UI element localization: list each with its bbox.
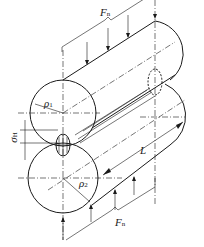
contact-cylinders-diagram [0,0,204,247]
force-bottom-label: Fn [115,217,125,228]
radius-1-label: ρ1 [44,98,53,109]
top-cylinder [18,21,183,146]
radius-2-label: ρ2 [79,178,88,189]
bottom-load [61,176,155,240]
sigma-h-dimension [20,120,58,160]
contact-zone [56,134,70,156]
sigma-h-label: σH [8,132,19,143]
length-label: L [140,145,146,156]
force-top-label: Fn [100,7,110,18]
